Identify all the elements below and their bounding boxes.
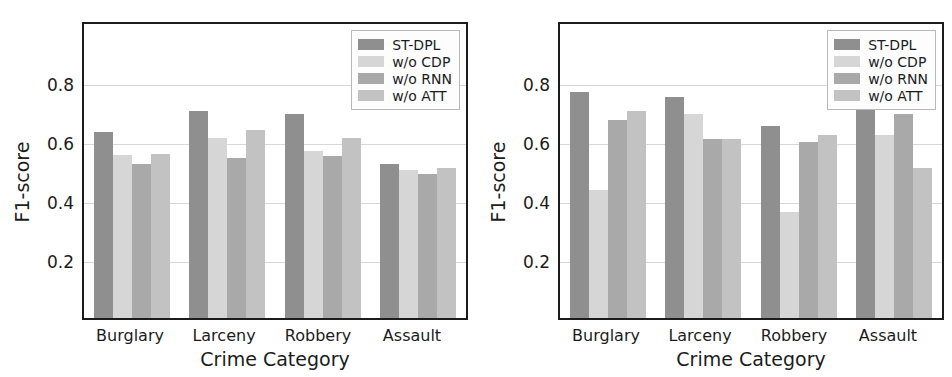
legend-right: ST-DPLw/o CDPw/o RNNw/o ATT (827, 30, 936, 110)
x-tick-label-assault: Assault (383, 326, 441, 345)
bar (875, 135, 894, 318)
bar (399, 170, 418, 318)
legend-swatch-w-o-rnn (834, 73, 860, 84)
x-tick-label-burglary: Burglary (572, 326, 640, 345)
plot-area-right: ST-DPLw/o CDPw/o RNNw/o ATT (558, 22, 944, 320)
bar (761, 126, 780, 318)
bar (856, 103, 875, 318)
chart-panel-right: F1-score 0.8 0.6 0.4 0.2 ST-DPLw/o CDPw/… (476, 0, 952, 377)
x-tick-label-robbery: Robbery (285, 326, 351, 345)
legend-row: w/o RNN (834, 70, 928, 87)
bar (94, 132, 113, 318)
x-tick-label-burglary: Burglary (96, 326, 164, 345)
bar (665, 97, 684, 318)
legend-row: ST-DPL (358, 36, 452, 53)
legend-row: w/o RNN (358, 70, 452, 87)
y-axis-title-left: F1-score (11, 142, 33, 223)
legend-swatch-st-dpl (358, 39, 384, 50)
x-axis-title-left: Crime Category (82, 348, 468, 370)
bar (304, 151, 323, 318)
chart-panel-left: F1-score 0.8 0.6 0.4 0.2 ST-DPLw/o CDPw/… (0, 0, 476, 377)
legend-swatch-w-o-att (834, 90, 860, 101)
bar (608, 120, 627, 318)
bar (189, 111, 208, 318)
legend-swatch-w-o-cdp (358, 56, 384, 67)
bar (285, 114, 304, 318)
bar (780, 212, 799, 318)
legend-left: ST-DPLw/o CDPw/o RNNw/o ATT (351, 30, 460, 110)
legend-row: w/o ATT (834, 87, 928, 104)
y-axis-title-right: F1-score (487, 142, 509, 223)
legend-label: w/o ATT (392, 89, 447, 103)
bar (703, 139, 722, 318)
x-tick-label-assault: Assault (859, 326, 917, 345)
bar (113, 155, 132, 318)
x-tick-label-robbery: Robbery (761, 326, 827, 345)
bar (818, 135, 837, 318)
bar (437, 168, 456, 318)
legend-label: w/o CDP (868, 55, 926, 69)
bar (913, 168, 932, 318)
bar (799, 142, 818, 318)
bar (627, 111, 646, 318)
bar (132, 164, 151, 318)
x-tick-label-larceny: Larceny (668, 326, 731, 345)
bar (570, 92, 589, 318)
legend-label: w/o ATT (868, 89, 923, 103)
figure-root: F1-score 0.8 0.6 0.4 0.2 ST-DPLw/o CDPw/… (0, 0, 952, 377)
legend-row: w/o CDP (358, 53, 452, 70)
legend-label: w/o CDP (392, 55, 450, 69)
bar (894, 114, 913, 318)
bar (418, 174, 437, 318)
bar (246, 130, 265, 318)
bar (227, 158, 246, 318)
y-axis-title-holder-left: F1-score (0, 0, 60, 342)
y-axis-title-holder-right: F1-score (476, 0, 536, 342)
bar (342, 138, 361, 318)
legend-row: ST-DPL (834, 36, 928, 53)
bar (589, 190, 608, 318)
plot-area-left: ST-DPLw/o CDPw/o RNNw/o ATT (82, 22, 468, 320)
legend-row: w/o ATT (358, 87, 452, 104)
x-tick-label-larceny: Larceny (192, 326, 255, 345)
legend-label: ST-DPL (868, 38, 916, 52)
bar (208, 138, 227, 318)
bar (151, 154, 170, 318)
legend-swatch-w-o-rnn (358, 73, 384, 84)
bar (684, 114, 703, 318)
bar (722, 139, 741, 318)
legend-label: w/o RNN (392, 72, 452, 86)
bar (380, 164, 399, 318)
x-axis-title-right: Crime Category (558, 348, 944, 370)
legend-swatch-w-o-att (358, 90, 384, 101)
bar (323, 156, 342, 318)
legend-label: w/o RNN (868, 72, 928, 86)
legend-row: w/o CDP (834, 53, 928, 70)
legend-swatch-w-o-cdp (834, 56, 860, 67)
legend-swatch-st-dpl (834, 39, 860, 50)
legend-label: ST-DPL (392, 38, 440, 52)
